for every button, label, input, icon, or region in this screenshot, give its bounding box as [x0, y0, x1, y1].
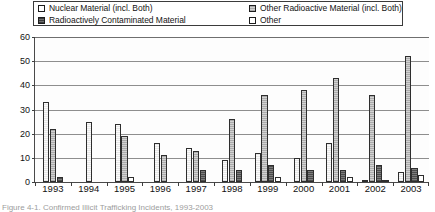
x-tick-1996: [142, 182, 143, 186]
x-tick-label-1993: 1993: [42, 184, 63, 194]
bar-nuclear-1996: [154, 143, 160, 182]
legend-item-radioactively-contaminated-material: Radioactively Contaminated Material: [38, 15, 186, 26]
legend-label-other-radioactive-material: Other Radioactive Material (incl. Both): [260, 4, 402, 13]
y-tick-label-60: 60: [20, 33, 30, 42]
legend-label-radioactively-contaminated-material: Radioactively Contaminated Material: [49, 16, 186, 25]
bar-contaminated-2003: [411, 168, 417, 183]
bar-other_radioactive-2002: [369, 95, 375, 182]
bar-other_radioactive-1995: [121, 136, 127, 182]
x-tick-2001: [322, 182, 323, 186]
bar-nuclear-1998: [222, 160, 228, 182]
x-tick-1994: [71, 182, 72, 186]
y-tick-label-20: 20: [20, 129, 30, 138]
plot-area: 0102030405060 19931994199519961997199819…: [34, 37, 429, 183]
bar-other_radioactive-2000: [301, 90, 307, 182]
bar-contaminated-1998: [236, 170, 242, 182]
legend-item-nuclear-material: Nuclear Material (incl. Both): [38, 3, 186, 14]
bar-other-2003: [418, 175, 424, 182]
bar-nuclear-1997: [186, 148, 192, 182]
legend-swatch-icon-other-radioactive-material: [249, 5, 256, 12]
x-tick-1997: [178, 182, 179, 186]
legend-swatch-icon-nuclear-material: [38, 5, 45, 12]
x-tick-2002: [357, 182, 358, 186]
x-tick-label-2002: 2002: [365, 184, 386, 194]
legend-item-other: Other: [249, 15, 402, 26]
bar-other_radioactive-2001: [333, 78, 339, 182]
bar-other_radioactive-1999: [261, 95, 267, 182]
x-tick-label-2001: 2001: [329, 184, 350, 194]
y-tick-30: [32, 110, 35, 111]
y-tick-label-10: 10: [20, 153, 30, 162]
bar-other-1995: [128, 177, 134, 182]
legend-label-other: Other: [260, 16, 281, 25]
legend-column-right: Other Radioactive Material (incl. Both) …: [249, 3, 402, 27]
x-tick-label-1998: 1998: [221, 184, 242, 194]
bar-nuclear-1993: [43, 102, 49, 182]
x-tick-2003: [393, 182, 394, 186]
y-tick-label-50: 50: [20, 57, 30, 66]
x-tick-1998: [214, 182, 215, 186]
figure-caption: Figure 4-1. Confirmed Illicit Traffickin…: [2, 203, 432, 212]
x-tick-label-1995: 1995: [114, 184, 135, 194]
bar-other_radioactive-1996: [161, 155, 167, 182]
bar-nuclear-2002: [362, 180, 368, 182]
bar-other-2002: [382, 180, 388, 182]
y-tick-20: [32, 134, 35, 135]
x-tick-label-2000: 2000: [293, 184, 314, 194]
legend-swatch-icon-other: [249, 17, 256, 24]
x-tick-label-1999: 1999: [257, 184, 278, 194]
x-tick-end: [428, 182, 429, 186]
y-tick-50: [32, 61, 35, 62]
y-tick-label-40: 40: [20, 81, 30, 90]
bar-nuclear-2000: [294, 158, 300, 182]
bar-nuclear-1995: [115, 124, 121, 182]
bar-nuclear-1999: [255, 153, 261, 182]
x-tick-label-1997: 1997: [186, 184, 207, 194]
bar-nuclear-2001: [326, 143, 332, 182]
x-tick-label-1996: 1996: [150, 184, 171, 194]
bar-other-1999: [275, 177, 281, 182]
chart-legend: Nuclear Material (incl. Both) Radioactiv…: [33, 1, 403, 26]
gridline-40: [35, 85, 429, 86]
legend-label-nuclear-material: Nuclear Material (incl. Both): [49, 4, 152, 13]
bar-contaminated-1997: [200, 170, 206, 182]
bar-other_radioactive-1998: [229, 119, 235, 182]
bar-nuclear-2003: [398, 172, 404, 182]
legend-swatch-icon-radioactively-contaminated-material: [38, 17, 45, 24]
y-tick-60: [32, 37, 35, 38]
y-tick-10: [32, 158, 35, 159]
bar-other-2001: [347, 177, 353, 182]
bar-contaminated-1999: [268, 165, 274, 182]
bar-nuclear-1994: [86, 122, 92, 182]
x-tick-1993: [35, 182, 36, 186]
bar-other_radioactive-1997: [193, 151, 199, 182]
bar-contaminated-2001: [340, 170, 346, 182]
figure-container: Nuclear Material (incl. Both) Radioactiv…: [0, 0, 435, 212]
gridline-50: [35, 61, 429, 62]
y-tick-label-0: 0: [25, 178, 30, 187]
x-tick-label-2003: 2003: [401, 184, 422, 194]
bar-other_radioactive-1993: [50, 129, 56, 182]
x-tick-2000: [286, 182, 287, 186]
x-tick-1995: [107, 182, 108, 186]
y-tick-40: [32, 85, 35, 86]
legend-column-left: Nuclear Material (incl. Both) Radioactiv…: [38, 3, 186, 27]
bar-contaminated-1993: [57, 177, 63, 182]
bar-contaminated-2000: [307, 170, 313, 182]
gridline-60: [35, 37, 429, 38]
x-tick-label-1994: 1994: [78, 184, 99, 194]
x-tick-1999: [250, 182, 251, 186]
bar-other_radioactive-2003: [405, 56, 411, 182]
legend-item-other-radioactive-material: Other Radioactive Material (incl. Both): [249, 3, 402, 14]
y-tick-label-30: 30: [20, 105, 30, 114]
bar-contaminated-2002: [376, 165, 382, 182]
